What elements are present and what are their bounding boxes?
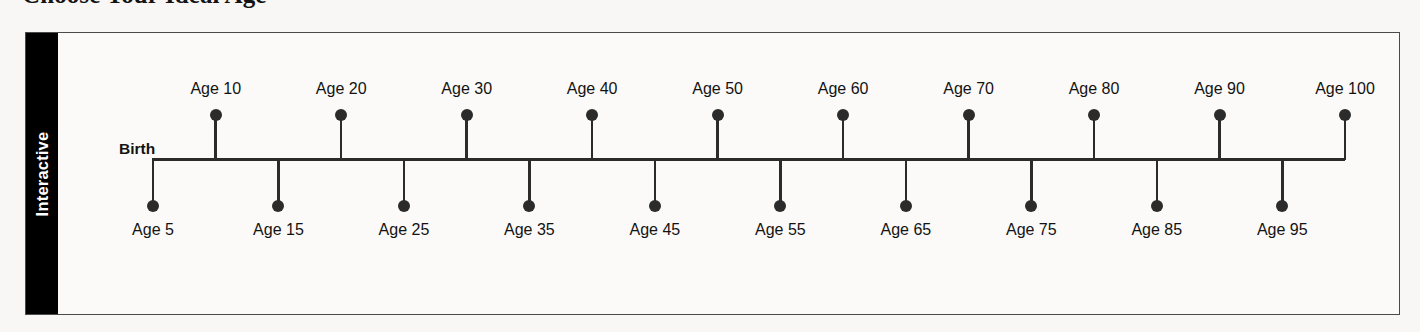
tick-dot-icon[interactable]	[398, 200, 410, 212]
tick-label: Age 45	[630, 221, 681, 239]
tick-stem	[842, 114, 845, 160]
tick-label: Age 20	[316, 80, 367, 98]
tick-label: Age 75	[1006, 221, 1057, 239]
interactive-tab[interactable]: Interactive	[26, 33, 58, 314]
tick-stem	[1093, 114, 1096, 160]
tick-label: Age 10	[190, 80, 241, 98]
tick-label: Age 60	[818, 80, 869, 98]
tick-stem	[1281, 158, 1284, 206]
tick-stem	[1344, 114, 1347, 160]
tick-dot-icon[interactable]	[963, 109, 975, 121]
tick-label: Age 85	[1131, 221, 1182, 239]
tick-dot-icon[interactable]	[1025, 200, 1037, 212]
tick-stem	[1030, 158, 1033, 206]
tick-stem	[403, 158, 406, 206]
tick-stem	[465, 114, 468, 160]
tick-dot-icon[interactable]	[837, 109, 849, 121]
tick-label: Age 30	[441, 80, 492, 98]
tick-dot-icon[interactable]	[649, 200, 661, 212]
interactive-tab-label: Interactive	[32, 132, 51, 217]
page-canvas: Choose Your Ideal Age Interactive Birth …	[0, 0, 1420, 332]
tick-label: Age 5	[132, 221, 174, 239]
tick-stem	[214, 114, 217, 160]
tick-label: Age 35	[504, 221, 555, 239]
tick-dot-icon[interactable]	[1214, 109, 1226, 121]
tick-dot-icon[interactable]	[1151, 200, 1163, 212]
tick-dot-icon[interactable]	[712, 109, 724, 121]
tick-stem	[528, 158, 531, 206]
page-title: Choose Your Ideal Age	[22, 0, 266, 9]
tick-stem	[905, 158, 908, 206]
tick-dot-icon[interactable]	[774, 200, 786, 212]
tick-label: Age 65	[880, 221, 931, 239]
tick-dot-icon[interactable]	[272, 200, 284, 212]
birth-label: Birth	[119, 140, 155, 158]
tick-stem	[277, 158, 280, 206]
tick-label: Age 40	[567, 80, 618, 98]
tick-dot-icon[interactable]	[210, 109, 222, 121]
panel-inner: Interactive Birth Age 5Age 10Age 15Age 2…	[26, 33, 1399, 314]
tick-label: Age 25	[379, 221, 430, 239]
tick-dot-icon[interactable]	[900, 200, 912, 212]
tick-dot-icon[interactable]	[1339, 109, 1351, 121]
tick-dot-icon[interactable]	[523, 200, 535, 212]
tick-stem	[967, 114, 970, 160]
age-timeline: Birth Age 5Age 10Age 15Age 20Age 25Age 3…	[59, 33, 1399, 314]
tick-dot-icon[interactable]	[1276, 200, 1288, 212]
tick-dot-icon[interactable]	[147, 200, 159, 212]
tick-label: Age 95	[1257, 221, 1308, 239]
tick-dot-icon[interactable]	[586, 109, 598, 121]
timeline-axis	[153, 158, 1345, 161]
tick-label: Age 90	[1194, 80, 1245, 98]
tick-stem	[1156, 158, 1159, 206]
tick-label: Age 55	[755, 221, 806, 239]
tick-stem	[1218, 114, 1221, 160]
interactive-panel: Interactive Birth Age 5Age 10Age 15Age 2…	[25, 32, 1400, 315]
tick-dot-icon[interactable]	[1088, 109, 1100, 121]
tick-label: Age 70	[943, 80, 994, 98]
tick-label: Age 15	[253, 221, 304, 239]
tick-label: Age 80	[1069, 80, 1120, 98]
tick-stem	[152, 158, 155, 206]
tick-stem	[591, 114, 594, 160]
tick-stem	[716, 114, 719, 160]
tick-stem	[654, 158, 657, 206]
tick-stem	[779, 158, 782, 206]
tick-label: Age 50	[692, 80, 743, 98]
tick-dot-icon[interactable]	[461, 109, 473, 121]
tick-dot-icon[interactable]	[335, 109, 347, 121]
tick-stem	[340, 114, 343, 160]
tick-label: Age 100	[1315, 80, 1375, 98]
